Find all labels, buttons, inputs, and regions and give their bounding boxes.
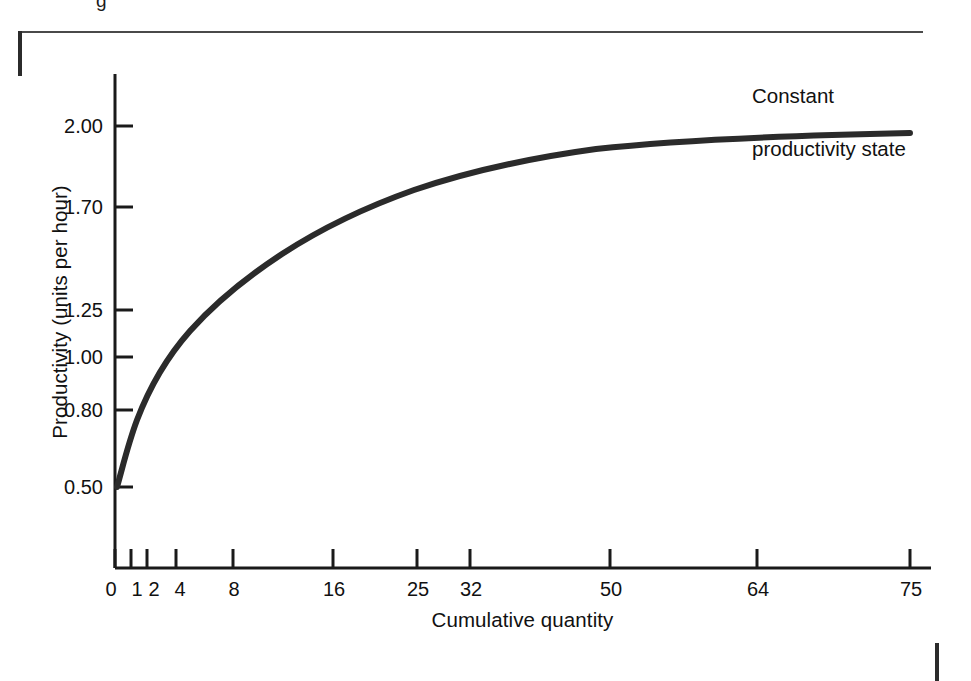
x-tick-label-25: 25 xyxy=(407,578,429,601)
x-tick-label-16: 16 xyxy=(323,578,345,601)
x-tick-label-4: 4 xyxy=(174,578,185,601)
x-tick-label-64: 64 xyxy=(747,578,769,601)
constant-productivity-state-annotation: Constant productivity state xyxy=(752,57,906,188)
x-tick-label-2: 2 xyxy=(148,578,159,601)
figure-container: g xyxy=(0,0,971,681)
y-axis-title: Productivity (units per hour) xyxy=(48,122,72,502)
annotation-line-1: Constant xyxy=(752,83,906,109)
x-tick-label-1: 1 xyxy=(131,578,142,601)
x-tick-label-50: 50 xyxy=(600,578,622,601)
annotation-line-2: productivity state xyxy=(752,136,906,162)
x-tick-label-8: 8 xyxy=(228,578,239,601)
x-axis-title: Cumulative quantity xyxy=(115,608,930,632)
x-tick-label-0: 0 xyxy=(105,578,116,601)
x-axis-ticks xyxy=(115,549,910,568)
x-tick-label-75: 75 xyxy=(900,578,922,601)
x-tick-label-32: 32 xyxy=(460,578,482,601)
